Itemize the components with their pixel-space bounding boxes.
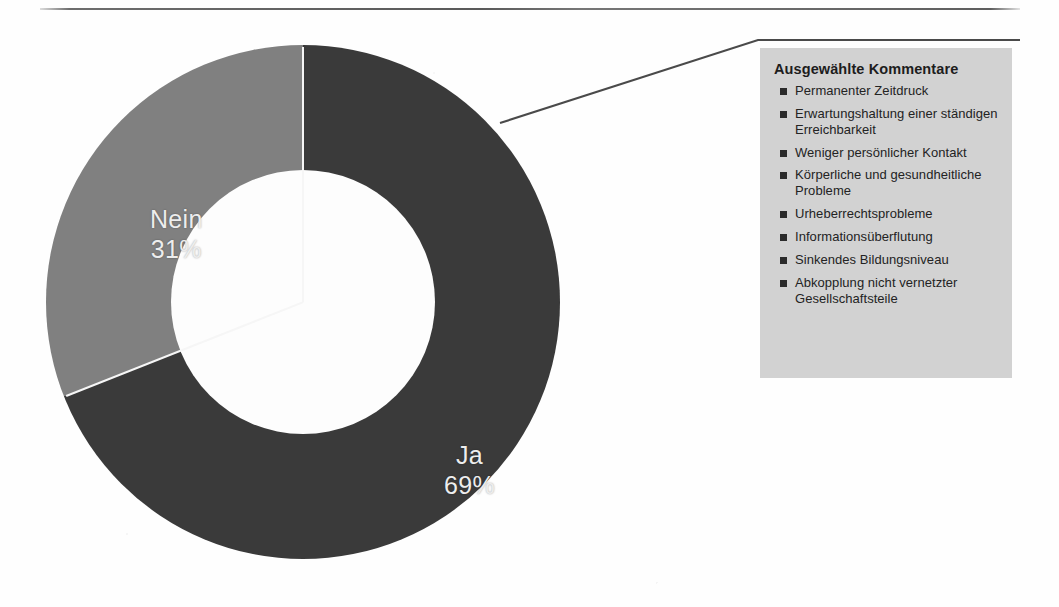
square-bullet-icon [780, 111, 787, 118]
slice-label-ja: Ja 69% [444, 441, 495, 500]
legend-item-label: Körperliche und gesundheitliche Probleme [795, 167, 1002, 199]
square-bullet-icon [780, 234, 787, 241]
legend-item: Körperliche und gesundheitliche Probleme [774, 167, 1002, 199]
square-bullet-icon [780, 150, 787, 157]
legend-item-label: Urheberrechtsprobleme [795, 206, 933, 222]
legend-title: Ausgewählte Kommentare [774, 62, 1002, 78]
legend-item-label: Weniger persönlicher Kontakt [795, 145, 967, 161]
slice-separator-top [302, 47, 304, 302]
square-bullet-icon [780, 257, 787, 264]
legend-item: Weniger persönlicher Kontakt [774, 145, 1002, 161]
donut-chart: Nein 31% Ja 69% [46, 45, 560, 559]
legend-item: Sinkendes Bildungsniveau [774, 252, 1002, 268]
legend-item-label: Sinkendes Bildungsniveau [795, 252, 949, 268]
square-bullet-icon [780, 280, 787, 287]
slice-label-ja-value: 69% [444, 471, 495, 501]
slice-label-nein-value: 31% [150, 235, 203, 265]
square-bullet-icon [780, 172, 787, 179]
slice-label-nein: Nein 31% [150, 205, 203, 264]
square-bullet-icon [780, 88, 787, 95]
slice-label-nein-name: Nein [150, 205, 203, 235]
legend-item: Informationsüberflutung [774, 229, 1002, 245]
legend-item: Erwartungshaltung einer ständigen Erreic… [774, 106, 1002, 138]
legend-panel: Ausgewählte Kommentare Permanenter Zeitd… [760, 48, 1012, 378]
legend-item: Urheberrechtsprobleme [774, 206, 1002, 222]
legend-item-label: Abkopplung nicht vernetzter Gesellschaft… [795, 275, 1002, 307]
legend-item: Permanenter Zeitdruck [774, 83, 1002, 99]
square-bullet-icon [780, 211, 787, 218]
legend-item-label: Informationsüberflutung [795, 229, 933, 245]
legend-item-label: Erwartungshaltung einer ständigen Erreic… [795, 106, 1002, 138]
slice-label-ja-name: Ja [444, 441, 495, 471]
chart-page: Nein 31% Ja 69% Ausgewählte Kommentare P… [0, 0, 1059, 607]
legend-item: Abkopplung nicht vernetzter Gesellschaft… [774, 275, 1002, 307]
top-horizontal-rule [40, 8, 1020, 10]
legend-item-label: Permanenter Zeitdruck [795, 83, 928, 99]
